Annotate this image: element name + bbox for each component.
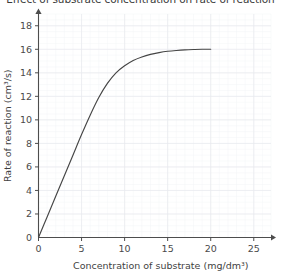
y-axis-label: Rate of reaction (cm³/s) (2, 69, 13, 182)
y-tick-label: 4 (26, 185, 32, 196)
x-axis-label: Concentration of substrate (mg/dm³) (73, 260, 248, 271)
chart-container: Effect of substrate concentration on rat… (0, 0, 281, 275)
y-tick-label: 16 (20, 44, 32, 55)
y-tick-label: 14 (20, 67, 32, 78)
x-tick-label: 25 (248, 243, 260, 254)
x-tick-label: 15 (162, 243, 174, 254)
y-tick-label: 8 (26, 138, 32, 149)
x-tick-label: 0 (35, 243, 41, 254)
y-tick-label: 2 (26, 208, 32, 219)
y-tick-label: 18 (20, 20, 32, 31)
x-tick-label: 20 (205, 243, 217, 254)
x-tick-label: 5 (79, 243, 85, 254)
chart-plot-svg: 0510152025 024681012141618 Concentration… (0, 0, 281, 275)
x-axis-ticks: 0510152025 (35, 238, 259, 254)
x-axis-arrow-icon (271, 234, 276, 240)
y-tick-label: 10 (20, 114, 32, 125)
y-tick-label: 0 (26, 232, 32, 243)
y-axis-arrow-icon (35, 9, 41, 15)
y-tick-label: 12 (20, 91, 32, 102)
y-tick-label: 6 (26, 161, 32, 172)
y-axis-ticks: 024681012141618 (20, 20, 39, 243)
x-tick-label: 10 (119, 243, 131, 254)
grid-minor-lines (39, 14, 272, 238)
